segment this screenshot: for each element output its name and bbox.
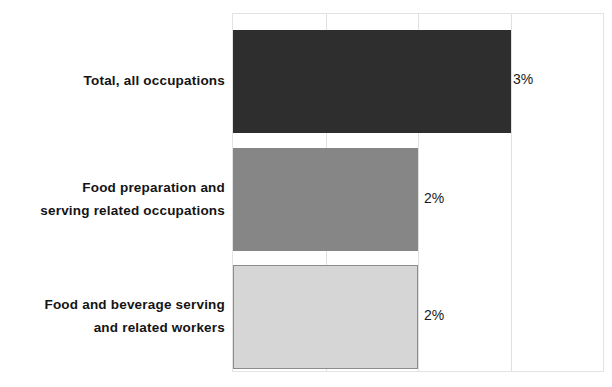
value-label-food-and-beverage-serving-and-related-workers: 2% xyxy=(424,307,444,323)
value-label-total-all-occupations: 3% xyxy=(513,71,533,87)
bar-total-all-occupations xyxy=(233,30,511,133)
category-label-food-and-beverage-serving-and-related-workers: Food and beverage serving and related wo… xyxy=(0,293,225,339)
bar-food-and-beverage-serving-and-related-workers xyxy=(233,265,418,369)
gridline-x-3 xyxy=(511,14,512,371)
category-label-line: Food and beverage serving xyxy=(0,293,225,316)
category-label-total-all-occupations: Total, all occupations xyxy=(0,69,225,92)
bar-food-preparation-and-serving-related-occupations xyxy=(233,148,418,251)
category-label-line: serving related occupations xyxy=(0,199,225,222)
category-label-food-preparation-and-serving-related-occupations: Food preparation and serving related occ… xyxy=(0,176,225,222)
value-label-food-preparation-and-serving-related-occupations: 2% xyxy=(424,190,444,206)
plot-area xyxy=(232,13,604,372)
bar-chart: Total, all occupations Food preparation … xyxy=(0,0,612,387)
category-axis-labels: Total, all occupations Food preparation … xyxy=(0,0,225,387)
category-label-line: and related workers xyxy=(0,316,225,339)
category-label-line: Total, all occupations xyxy=(0,69,225,92)
category-label-line: Food preparation and xyxy=(0,176,225,199)
